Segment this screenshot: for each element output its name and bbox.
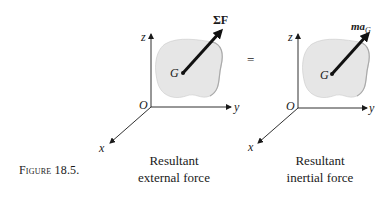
right-y-label: y — [369, 101, 374, 116]
figure-label: Figure 18.5. — [19, 163, 80, 178]
right-caption-line2: inertial force — [265, 169, 375, 186]
left-origin-label: O — [139, 98, 148, 113]
left-y-label: y — [234, 100, 239, 115]
right-g-label: G — [320, 68, 329, 83]
right-x-label: x — [248, 140, 253, 155]
right-caption: Resultant inertial force — [265, 152, 375, 186]
ma-g-subscript: G — [365, 26, 371, 35]
left-caption: Resultant external force — [119, 152, 229, 186]
ma-g-label: maG — [351, 20, 371, 35]
ma-g-main: ma — [351, 20, 365, 32]
figure-label-text: Figure 18.5. — [19, 163, 80, 177]
left-g-label: G — [170, 66, 179, 81]
right-origin-label: O — [286, 99, 295, 114]
left-caption-line2: external force — [119, 169, 229, 186]
left-caption-line1: Resultant — [119, 152, 229, 169]
right-caption-line1: Resultant — [265, 152, 375, 169]
left-z-label: z — [141, 30, 146, 45]
equals-sign: = — [247, 52, 254, 68]
sum-f-label: ΣF — [213, 13, 228, 28]
right-z-label: z — [288, 30, 293, 45]
left-x-label: x — [99, 141, 104, 156]
